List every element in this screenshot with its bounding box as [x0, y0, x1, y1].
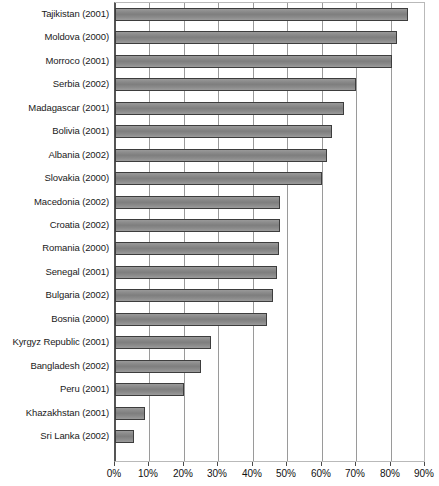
category-label: Senegal (2001) [0, 266, 109, 277]
bar [115, 8, 408, 21]
x-tick-mark [183, 462, 184, 466]
category-label: Bangladesh (2002) [0, 360, 109, 371]
x-tick-mark [114, 462, 115, 466]
bar [115, 149, 327, 162]
category-label: Serbia (2002) [0, 78, 109, 89]
x-tick-mark [321, 462, 322, 466]
x-tick-mark [390, 462, 391, 466]
bar [115, 336, 211, 349]
bar [115, 125, 332, 138]
bar [115, 289, 273, 302]
bar [115, 31, 397, 44]
category-label: Bosnia (2000) [0, 313, 109, 324]
category-label: Slovakia (2000) [0, 172, 109, 183]
bar [115, 430, 134, 443]
category-label: Albania (2002) [0, 149, 109, 160]
category-label: Macedonia (2002) [0, 196, 109, 207]
x-tick-label: 90% [404, 468, 439, 480]
bar [115, 242, 279, 255]
x-tick-mark [217, 462, 218, 466]
bar [115, 313, 267, 326]
category-label: Madagascar (2001) [0, 102, 109, 113]
category-label: Sri Lanka (2002) [0, 430, 109, 441]
category-label: Tajikistan (2001) [0, 8, 109, 19]
x-tick-mark [286, 462, 287, 466]
category-label: Morroco (2001) [0, 55, 109, 66]
x-tick-label: 50% [266, 468, 306, 480]
bar [115, 360, 201, 373]
category-axis: Tajikistan (2001)Moldova (2000)Morroco (… [0, 0, 113, 462]
category-label: Bolivia (2001) [0, 125, 109, 136]
x-tick-label: 10% [128, 468, 168, 480]
x-tick-mark [148, 462, 149, 466]
x-tick-label: 70% [335, 468, 375, 480]
bar [115, 172, 322, 185]
bars-layer [115, 3, 424, 461]
plot-area [114, 2, 425, 462]
x-tick-label: 30% [197, 468, 237, 480]
x-tick-mark [424, 462, 425, 466]
x-tick-mark [252, 462, 253, 466]
bar [115, 219, 280, 232]
bar [115, 102, 344, 115]
bar [115, 55, 392, 68]
x-tick-mark [355, 462, 356, 466]
category-label: Peru (2001) [0, 383, 109, 394]
category-label: Bulgaria (2002) [0, 289, 109, 300]
bar [115, 266, 277, 279]
bar [115, 407, 145, 420]
category-label: Romania (2000) [0, 242, 109, 253]
category-label: Moldova (2000) [0, 31, 109, 42]
category-label: Kyrgyz Republic (2001) [0, 336, 109, 347]
bar [115, 383, 184, 396]
bar [115, 78, 356, 91]
value-axis: 0%10%20%30%40%50%60%70%80%90% [114, 462, 425, 486]
bar [115, 196, 280, 209]
category-label: Croatia (2002) [0, 219, 109, 230]
category-label: Khazakhstan (2001) [0, 407, 109, 418]
